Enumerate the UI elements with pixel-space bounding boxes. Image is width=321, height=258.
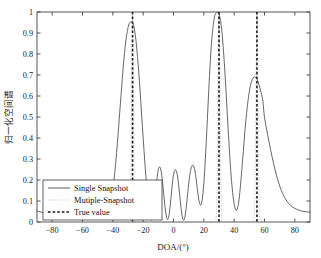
spatial-spectrum-chart: −80−60−40−20020406080 00.10.20.30.40.50.…	[0, 0, 321, 258]
y-tick-label: 0	[29, 218, 33, 227]
legend-label-true-value: True value	[74, 208, 110, 217]
y-tick-label: 0.8	[23, 50, 33, 59]
y-tick-label: 0.7	[23, 71, 33, 80]
x-tick-label: −80	[46, 226, 59, 235]
x-tick-label: −40	[106, 226, 119, 235]
chart-figure: −80−60−40−20020406080 00.10.20.30.40.50.…	[0, 0, 321, 258]
legend-label-multiple-snapshot: Mutiple-Snapshot	[74, 196, 135, 205]
x-tick-label: 20	[200, 226, 208, 235]
x-tick-label: −60	[76, 226, 89, 235]
x-axis-label: DOA/(°)	[157, 242, 189, 252]
x-axis-tick-labels: −80−60−40−20020406080	[46, 226, 299, 235]
y-tick-label: 0.3	[23, 155, 33, 164]
chart-legend: Single Snapshot Mutiple-Snapshot True va…	[43, 180, 162, 220]
y-tick-label: 0.9	[23, 29, 33, 38]
legend-label-single-snapshot: Single Snapshot	[74, 184, 129, 193]
x-tick-label: −20	[137, 226, 150, 235]
x-tick-label: 80	[291, 226, 299, 235]
x-tick-label: 0	[171, 226, 175, 235]
y-tick-label: 0.6	[23, 92, 33, 101]
x-tick-label: 40	[230, 226, 238, 235]
x-tick-label: 60	[260, 226, 268, 235]
y-tick-label: 0.5	[23, 113, 33, 122]
y-tick-label: 0.2	[23, 176, 33, 185]
y-tick-label: 1	[29, 8, 33, 17]
y-axis-label: 归一化空间谱	[3, 90, 14, 144]
y-tick-label: 0.4	[23, 134, 33, 143]
y-tick-label: 0.1	[23, 197, 33, 206]
